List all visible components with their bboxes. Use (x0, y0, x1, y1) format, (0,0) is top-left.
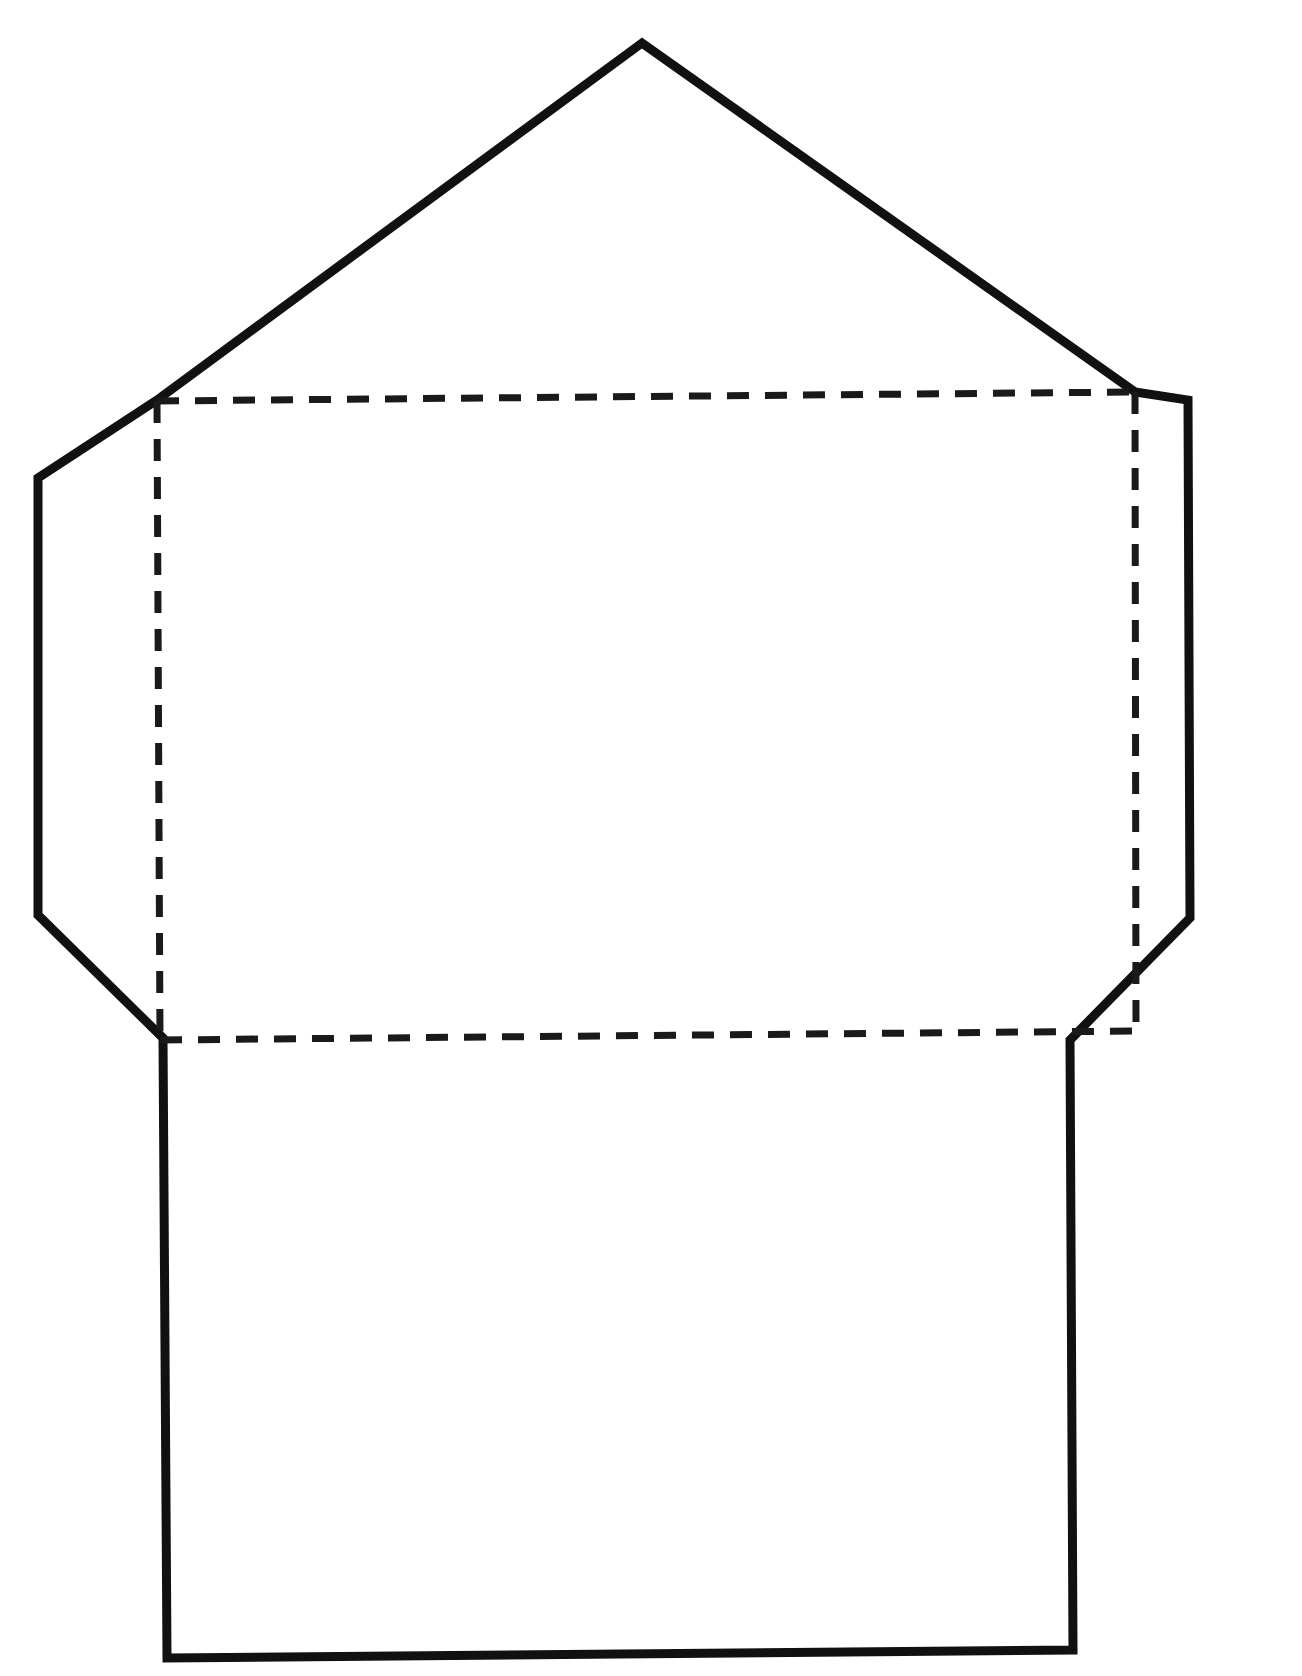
page-canvas: Envelope Template (0, 0, 1302, 1676)
envelope-template-diagram (0, 0, 1302, 1676)
right-flap-fold-line (1135, 392, 1136, 1031)
page-background (0, 0, 1302, 1676)
left-flap-fold-line (157, 401, 160, 1040)
